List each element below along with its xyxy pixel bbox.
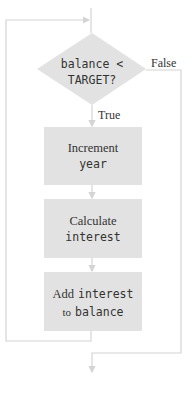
step-text: Calculate (69, 213, 116, 229)
false-label: False (151, 56, 176, 71)
step-code: interest (65, 229, 120, 245)
condition-line-2: TARGET? (52, 72, 132, 88)
step-text: Increment (68, 140, 119, 156)
step-calculate-interest: Calculate interest (44, 199, 142, 258)
step-text-add: Add (53, 287, 75, 301)
true-label: True (98, 108, 120, 123)
condition-line-1: balance < (52, 56, 132, 72)
step-add-interest: Add interest to balance (44, 272, 142, 331)
step-text-to: to (62, 306, 71, 318)
step-code: year (79, 156, 107, 172)
decision-condition: balance < TARGET? (52, 56, 132, 88)
step-code-balance: balance (75, 305, 123, 319)
step-increment-year: Increment year (44, 127, 142, 185)
step-code-interest: interest (78, 287, 133, 301)
